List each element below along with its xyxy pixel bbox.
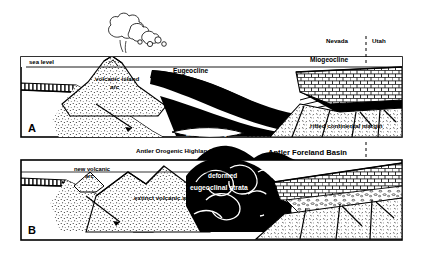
panel-letter-b: B [28,224,36,236]
label-sea-level: sea level [29,59,54,65]
label-back-arc-rifting: Back-arc rifting [186,131,228,137]
label-deformed-line2: eugeoclinal strata [190,184,248,192]
geologic-cross-section-figure: sea level volcanic island arc Eugeocline… [0,0,422,254]
label-state-nevada: Nevada [326,37,349,44]
label-antler-foreland-basin: Antler Foreland Basin [268,148,347,157]
label-antler-orogenic-highland: Antler Orogenic Highland [136,147,211,154]
label-miogeocline: Miogeocline [310,56,348,64]
label-deformed-line1: deformed [208,172,237,179]
label-extinct-volcanic-arc: extinct volcanic arc [134,194,192,201]
label-volcanic-island-arc-line1: volcanic island [95,75,140,82]
label-new-volcanic-arc-line1: new volcanic [74,166,111,172]
label-state-utah: Utah [372,37,386,44]
label-new-volcanic-arc-line2: arc [85,173,94,179]
cross-section-svg: sea level volcanic island arc Eugeocline… [0,0,422,254]
label-eugeocline: Eugeocline [173,67,209,75]
label-volcanic-island-arc-line2: arc [110,83,120,90]
label-rifted-continental-margin: rifted continental margin [310,122,383,129]
panel-letter-a: A [28,122,36,134]
